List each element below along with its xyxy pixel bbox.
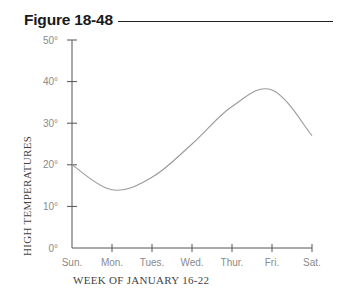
y-tick-label: 10° xyxy=(43,201,58,212)
x-tick-label: Tues. xyxy=(140,257,165,268)
x-tick-label: Sat. xyxy=(303,257,321,268)
y-tick-label: 40° xyxy=(43,76,58,87)
x-tick-label: Wed. xyxy=(180,257,203,268)
y-tick-label: 0° xyxy=(48,243,58,254)
x-tick-label: Mon. xyxy=(101,257,123,268)
x-axis-title: WEEK OF JANUARY 16-22 xyxy=(73,274,209,286)
x-tick-label: Fri. xyxy=(265,257,279,268)
line-chart: 0°10°20°30°40°50° Sun.Mon.Tues.Wed.Thur.… xyxy=(0,0,342,301)
x-tick-label: Thur. xyxy=(221,257,244,268)
y-axis-title: HIGH TEMPERATURES xyxy=(21,136,33,256)
y-tick-label: 50° xyxy=(43,35,58,46)
y-tick-label: 30° xyxy=(43,118,58,129)
y-tick-label: 20° xyxy=(43,159,58,170)
temperature-curve xyxy=(72,89,312,191)
x-tick-label: Sun. xyxy=(62,257,83,268)
